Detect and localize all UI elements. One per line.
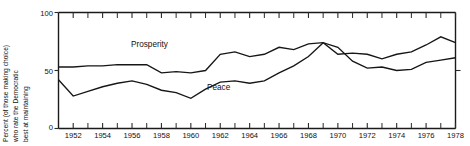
x-axis-tick-label-1972: 1972	[354, 131, 380, 140]
data-line-prosperity	[59, 37, 456, 73]
x-axis-tick-label-1970: 1970	[325, 131, 351, 140]
x-axis-tick-label-1952: 1952	[60, 131, 86, 140]
x-axis-tick-label-1978: 1978	[443, 131, 469, 140]
plot-area	[0, 0, 470, 146]
x-axis-tick-label-1958: 1958	[148, 131, 174, 140]
x-axis-tick-label-1968: 1968	[295, 131, 321, 140]
x-axis-tick-label-1956: 1956	[119, 131, 145, 140]
chart-container: Percent (of those making choice) who rat…	[0, 0, 470, 146]
x-axis-tick-label-1974: 1974	[384, 131, 410, 140]
x-axis-tick-label-1966: 1966	[266, 131, 292, 140]
x-axis-tick-label-1954: 1954	[90, 131, 116, 140]
data-line-peace	[59, 43, 456, 99]
x-axis-tick-label-1976: 1976	[413, 131, 439, 140]
x-axis-tick-label-1964: 1964	[237, 131, 263, 140]
x-axis-tick-label-1960: 1960	[178, 131, 204, 140]
x-axis-tick-label-1962: 1962	[207, 131, 233, 140]
